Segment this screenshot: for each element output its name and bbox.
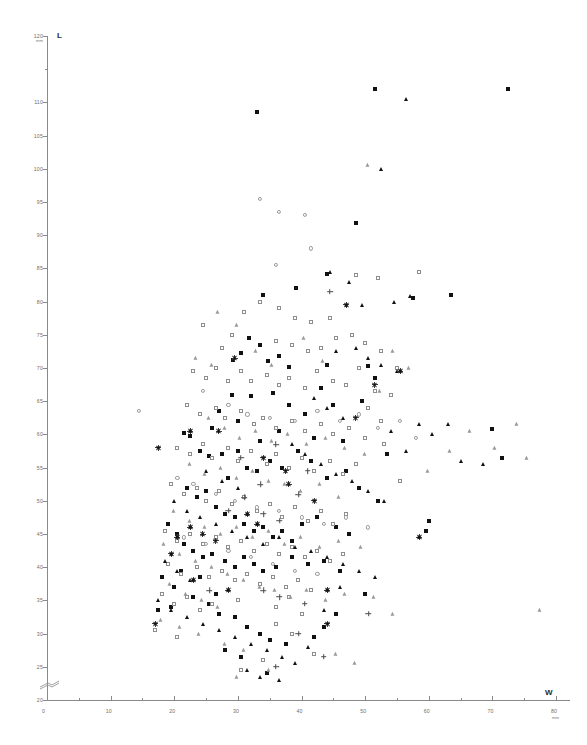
star-core [189, 526, 192, 529]
data-point-star [260, 455, 266, 461]
data-point-open-square [417, 270, 421, 274]
data-point-open-triangle [353, 661, 358, 666]
data-point-filled-triangle [233, 635, 237, 639]
data-point-filled-triangle [481, 462, 485, 466]
data-point-open-square [319, 422, 323, 426]
data-point-filled-square [500, 456, 504, 460]
y-tick-label: 105 [29, 133, 43, 139]
data-point-filled-square [201, 555, 205, 559]
data-point-filled-square [490, 427, 494, 431]
y-tick-label: 45 [29, 531, 43, 537]
x-tick [302, 696, 303, 700]
data-point-open-triangle [363, 452, 368, 457]
data-point-plus [241, 495, 247, 501]
open-triangle-glyph [448, 449, 452, 453]
data-point-open-triangle [337, 495, 342, 500]
data-point-open-triangle [318, 545, 323, 550]
x-axis-name: W [545, 688, 553, 697]
star-core [227, 589, 230, 592]
data-point-open-circle [344, 515, 348, 519]
data-point-filled-triangle [354, 346, 358, 350]
data-point-star [397, 368, 403, 374]
data-point-open-circle [366, 525, 370, 529]
data-point-open-square [274, 452, 278, 456]
data-point-open-square [284, 585, 288, 589]
data-point-open-circle [299, 515, 303, 519]
data-point-star [244, 511, 250, 517]
open-triangle-glyph [343, 591, 347, 595]
scatter-plot-figure: L W mm mm 010203040506070802025303540455… [0, 0, 587, 745]
open-triangle-glyph [337, 495, 341, 499]
data-point-open-triangle [242, 648, 247, 653]
data-point-open-triangle [226, 572, 231, 577]
star-core [170, 553, 173, 556]
data-point-filled-triangle [417, 422, 421, 426]
open-triangle-glyph [200, 598, 204, 602]
data-point-filled-triangle [379, 363, 383, 367]
data-point-open-square [319, 509, 323, 513]
data-point-star [225, 587, 231, 593]
y-tick-label: 20 [29, 697, 43, 703]
x-tick [238, 696, 239, 700]
data-point-filled-triangle [446, 422, 450, 426]
y-tick [43, 169, 47, 170]
open-triangle-glyph [525, 455, 529, 459]
data-point-filled-triangle [404, 97, 408, 101]
data-point-filled-square [280, 529, 284, 533]
data-point-filled-triangle [366, 489, 370, 493]
data-point-open-square [185, 403, 189, 407]
data-point-star [152, 621, 158, 627]
data-point-filled-square [271, 391, 275, 395]
x-tick-label: 30 [233, 708, 239, 714]
data-point-filled-triangle [156, 598, 160, 602]
data-point-open-triangle [324, 598, 329, 603]
data-point-open-square [379, 349, 383, 353]
open-triangle-glyph [254, 349, 258, 353]
data-point-star [187, 524, 193, 530]
data-point-open-square [175, 635, 179, 639]
data-point-open-square [306, 349, 310, 353]
data-point-filled-square [214, 505, 218, 509]
open-triangle-glyph [353, 661, 357, 665]
data-point-open-square [331, 432, 335, 436]
open-triangle-glyph [299, 535, 303, 539]
data-point-open-square [398, 479, 402, 483]
data-point-open-square [274, 426, 278, 430]
data-point-filled-square [198, 575, 202, 579]
data-point-open-square [210, 456, 214, 460]
data-point-open-triangle [366, 163, 371, 168]
data-point-filled-triangle [236, 486, 240, 490]
y-tick [43, 634, 47, 635]
data-point-open-triangle [267, 668, 272, 673]
data-point-open-square [207, 575, 211, 579]
data-point-open-square [363, 341, 367, 345]
y-axis-break-icon [38, 676, 60, 692]
data-point-filled-square [325, 476, 329, 480]
open-triangle-glyph [194, 558, 198, 562]
data-point-filled-triangle [392, 300, 396, 304]
star-core [287, 483, 290, 486]
data-point-open-circle [376, 426, 380, 430]
data-point-filled-square [341, 439, 345, 443]
star-core [176, 536, 179, 539]
data-point-star [216, 428, 222, 434]
data-point-open-triangle [334, 651, 339, 656]
open-triangle-glyph [267, 668, 271, 672]
data-point-filled-triangle [389, 429, 393, 433]
x-tick [111, 696, 112, 700]
star-core [256, 523, 259, 526]
data-point-open-square [277, 383, 281, 387]
x-minor-tick [333, 698, 334, 701]
data-point-filled-triangle [169, 608, 173, 612]
data-point-open-square [389, 393, 393, 397]
data-point-open-triangle [525, 455, 530, 460]
data-point-open-triangle [538, 608, 543, 613]
data-point-open-square [201, 323, 205, 327]
open-triangle-glyph [391, 349, 395, 353]
data-point-filled-square [214, 592, 218, 596]
data-point-open-square [363, 436, 367, 440]
open-triangle-glyph [267, 479, 271, 483]
data-point-open-triangle [172, 508, 177, 513]
data-point-open-square [175, 446, 179, 450]
data-point-filled-square [182, 431, 186, 435]
